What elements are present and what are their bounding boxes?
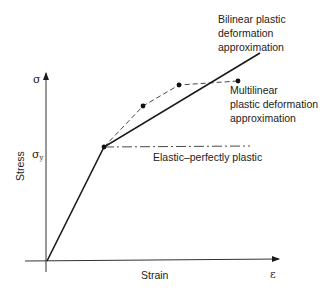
stress-strain-diagram: σ σy ε Stress Strain Bilinear plastic de… [0, 0, 325, 291]
multilinear-curve [104, 81, 238, 147]
x-axis-symbol: ε [270, 268, 276, 281]
multilinear-point-marker [236, 79, 241, 84]
y-axis-symbol: σ [33, 73, 41, 86]
x-axis [25, 259, 279, 261]
multilinear-point-marker [177, 83, 182, 88]
elastic-perfectly-plastic-line [104, 146, 250, 147]
bilinear-annotation: Bilinear plastic deformation approximati… [218, 13, 289, 53]
x-axis-label: Strain [141, 269, 169, 281]
yield-stress-label: σy [32, 148, 44, 162]
multilinear-annotation: Multilinear plastic deformation approxim… [230, 84, 321, 124]
y-axis-label: Stress [14, 151, 26, 181]
multilinear-point-marker [141, 104, 146, 109]
yield-stress-subscript: y [39, 154, 44, 162]
yield-point-marker [102, 145, 107, 150]
elastic-perfectly-plastic-annotation: Elastic–perfectly plastic [153, 151, 262, 163]
